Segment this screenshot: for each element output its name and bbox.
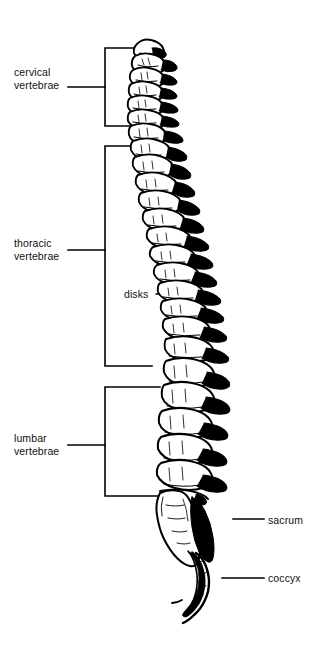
label-lumbar-vertebrae: lumbar vertebrae <box>14 432 59 457</box>
label-lumbar-line2: vertebrae <box>14 445 59 458</box>
label-cervical-line2: vertebrae <box>14 79 59 92</box>
label-cervical-line1: cervical <box>14 66 59 79</box>
label-disks: disks <box>124 288 148 301</box>
label-thoracic-line2: vertebrae <box>14 250 59 263</box>
label-thoracic-line1: thoracic <box>14 237 59 250</box>
label-coccyx: coccyx <box>268 572 301 585</box>
spine-anatomy-diagram <box>0 0 329 645</box>
label-thoracic-vertebrae: thoracic vertebrae <box>14 237 59 262</box>
label-lumbar-line1: lumbar <box>14 432 59 445</box>
label-sacrum: sacrum <box>268 514 303 527</box>
label-cervical-vertebrae: cervical vertebrae <box>14 66 59 91</box>
